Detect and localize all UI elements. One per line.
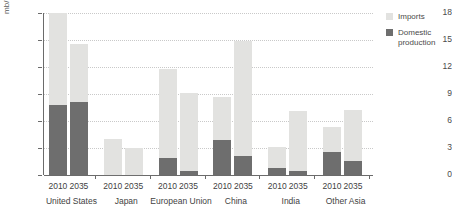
bar-segment-domestic-production [70,102,88,175]
bar-segment-imports [159,69,177,158]
x-tick-year-european-union-2035: 2035 [175,181,203,191]
bar-segment-imports [323,127,341,151]
bar-segment-imports [268,147,286,168]
bar-other-asia-2035 [344,110,362,175]
plot-area [44,13,373,175]
legend-item-domestic-production: Domestic production [386,28,452,48]
bar-japan-2035 [125,148,143,175]
bar-segment-imports [70,44,88,103]
bar-segment-domestic-production [213,140,231,175]
y-axis-label: mb/d [2,0,11,14]
bar-other-asia-2010 [323,127,341,175]
bar-segment-domestic-production [180,171,198,175]
x-axis-tick-0 [95,175,96,179]
bar-segment-imports [344,110,362,160]
y-tick-mark-9 [38,94,42,95]
bar-united-states-2035 [70,44,88,175]
x-tick-year-united-states-2035: 2035 [65,181,93,191]
bar-european-union-2010 [159,69,177,175]
bar-segment-imports [125,148,143,174]
gridline-12 [44,67,373,68]
bar-segment-imports [104,139,122,175]
legend-swatch-domestic-icon [386,29,393,36]
y-tick-mark-15 [38,40,42,41]
x-group-label-other-asia: Other Asia [310,196,381,206]
y-tick-label-9: 9 [420,89,452,98]
legend-label-domestic-line2: production [398,38,435,47]
legend-swatch-imports-icon [386,13,393,20]
bar-china-2035 [234,41,252,175]
bar-segment-imports [49,13,67,105]
legend-label-imports: Imports [398,12,425,21]
y-tick-mark-0 [38,175,42,176]
y-tick-label-6: 6 [420,116,452,125]
y-tick-mark-18 [38,13,42,14]
bar-european-union-2035 [180,93,198,175]
chart-legend: Imports Domestic production [386,12,452,54]
gridline-9 [44,94,373,95]
y-tick-mark-3 [38,148,42,149]
bar-segment-domestic-production [323,152,341,175]
bar-segment-domestic-production [344,161,362,175]
y-tick-label-3: 3 [420,143,452,152]
x-tick-year-india-2035: 2035 [284,181,312,191]
x-axis-tick-5 [369,175,370,179]
x-axis-tick-4 [314,175,315,179]
bar-segment-domestic-production [289,171,307,176]
legend-item-imports: Imports [386,12,452,22]
x-tick-year-china-2035: 2035 [229,181,257,191]
bar-segment-domestic-production [268,168,286,175]
bar-segment-domestic-production [234,156,252,175]
x-tick-year-japan-2035: 2035 [120,181,148,191]
bar-india-2035 [289,111,307,175]
bar-japan-2010 [104,139,122,175]
bar-segment-imports [180,93,198,171]
y-axis-label-container: mb/d [0,0,16,60]
gridline-0 [44,175,373,176]
bar-segment-imports [289,111,307,170]
bar-united-states-2010 [49,13,67,175]
bar-segment-domestic-production [49,105,67,175]
x-axis-tick-2 [205,175,206,179]
bar-china-2010 [213,97,231,175]
x-axis-tick-1 [150,175,151,179]
gridline-18 [44,13,373,14]
y-tick-mark-6 [38,121,42,122]
bar-segment-imports [213,97,231,140]
gridline-15 [44,40,373,41]
bar-india-2010 [268,147,286,175]
bar-segment-domestic-production [159,158,177,175]
gridline-6 [44,121,373,122]
y-tick-mark-12 [38,67,42,68]
bar-segment-imports [234,41,252,156]
y-tick-label-0: 0 [420,170,452,179]
x-tick-year-other-asia-2035: 2035 [339,181,367,191]
oil-demand-stacked-bar-chart: mb/d 0369121518 20102035United States201… [0,0,452,216]
y-tick-label-12: 12 [420,62,452,71]
legend-label-domestic-line1: Domestic [398,28,431,37]
x-axis-tick-3 [259,175,260,179]
